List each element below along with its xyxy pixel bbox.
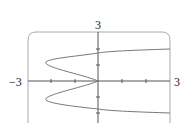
x-max-label: 3 [174, 76, 180, 88]
y-max-label: 3 [95, 19, 101, 31]
x-min-label: −3 [9, 76, 22, 88]
